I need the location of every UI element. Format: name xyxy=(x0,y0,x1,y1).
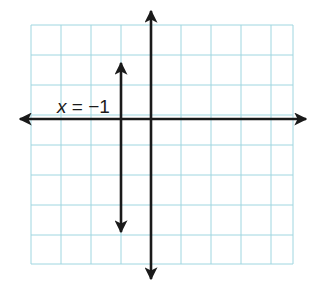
line-equation-label: x = −1 xyxy=(57,97,110,116)
grid xyxy=(31,25,293,264)
equation-variable: x xyxy=(57,96,67,117)
coordinate-plane xyxy=(0,0,319,290)
equation-value: = −1 xyxy=(67,96,110,117)
